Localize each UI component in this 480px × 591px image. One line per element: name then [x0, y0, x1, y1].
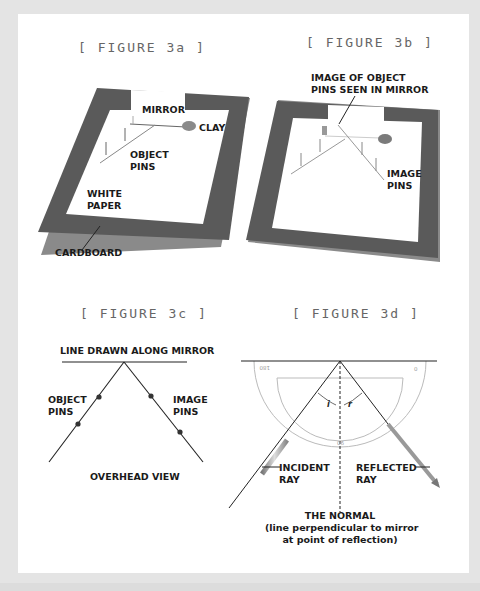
- figure-3c-title: [ FIGURE 3c ]: [80, 306, 208, 321]
- figure-3d-title: [ FIGURE 3d ]: [292, 306, 420, 321]
- fig3d-protractor: 180 0 90 i r: [229, 361, 440, 512]
- image-pins-label: IMAGE PINS: [387, 168, 422, 192]
- overhead-view-label: OVERHEAD VIEW: [90, 471, 180, 483]
- line-along-mirror-label: LINE DRAWN ALONG MIRROR: [60, 345, 214, 357]
- protractor-tick-180: 180: [259, 365, 270, 371]
- angle-i-label: i: [327, 400, 330, 409]
- the-normal-label: THE NORMAL: [290, 510, 390, 522]
- white-paper-label: WHITE PAPER: [87, 188, 122, 212]
- image-of-object-pins-label: IMAGE OF OBJECT PINS SEEN IN MIRROR: [311, 72, 428, 96]
- incident-ray-label: INCIDENT RAY: [279, 462, 330, 486]
- mirror-label: MIRROR: [142, 104, 185, 116]
- angle-r-label: r: [348, 400, 353, 409]
- figure-3b-title: [ FIGURE 3b ]: [306, 35, 434, 50]
- object-pins-label: OBJECT PINS: [130, 149, 169, 173]
- normal-description: (line perpendicular to mirror at point o…: [265, 522, 415, 546]
- clay-label: CLAY: [199, 122, 225, 134]
- protractor-tick-90: 90: [337, 440, 344, 446]
- protractor-tick-0: 0: [414, 366, 418, 372]
- figure-3a-title: [ FIGURE 3a ]: [78, 40, 206, 55]
- bottom-strip: [0, 583, 480, 591]
- image-pins-label-3c: IMAGE PINS: [173, 394, 208, 418]
- reflected-ray-label: REFLECTED RAY: [356, 462, 417, 486]
- cardboard-label: CARDBOARD: [55, 247, 122, 259]
- object-pins-label-3c: OBJECT PINS: [48, 394, 87, 418]
